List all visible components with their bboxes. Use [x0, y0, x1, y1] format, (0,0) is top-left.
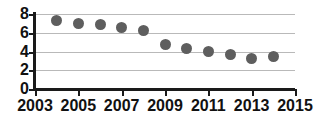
x-tick-2011 [208, 89, 210, 96]
x-tick-2005 [78, 89, 80, 96]
x-tick-label-2013: 2013 [229, 98, 275, 114]
data-point [246, 53, 257, 64]
data-point [51, 15, 62, 26]
plot-area [35, 14, 295, 89]
y-tick-label-4: 4 [3, 44, 29, 60]
data-point [73, 18, 84, 29]
data-point [225, 49, 236, 60]
x-tick-label-2003: 2003 [12, 98, 58, 114]
y-tick-label-0: 0 [3, 81, 29, 97]
data-point [116, 22, 127, 33]
x-tick-2009 [165, 89, 167, 96]
data-point [181, 43, 192, 54]
x-tick-2007 [122, 89, 124, 96]
x-tick-2013 [252, 89, 254, 96]
data-point [160, 39, 171, 50]
data-point [95, 19, 106, 30]
data-point [138, 25, 149, 36]
scatter-chart: 02468 2003200520072009201120132015 [0, 0, 315, 122]
data-point [268, 51, 279, 62]
x-tick-label-2005: 2005 [55, 98, 101, 114]
y-tick-label-8: 8 [3, 6, 29, 22]
x-tick-label-2009: 2009 [142, 98, 188, 114]
x-tick-label-2007: 2007 [99, 98, 145, 114]
x-tick-label-2015: 2015 [272, 98, 315, 114]
y-tick-label-2: 2 [3, 62, 29, 78]
x-tick-label-2011: 2011 [185, 98, 231, 114]
x-tick-2003 [35, 89, 37, 96]
x-tick-2015 [295, 89, 297, 96]
data-point [203, 46, 214, 57]
y-tick-label-6: 6 [3, 25, 29, 41]
